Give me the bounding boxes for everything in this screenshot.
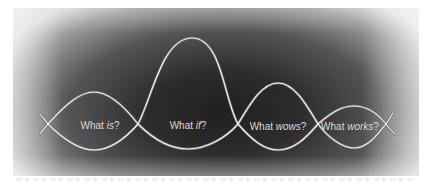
stage-label-emphasis: wows xyxy=(276,121,301,132)
stage-label-prefix: What xyxy=(321,121,347,132)
stage-label-what-if: What if? xyxy=(170,120,207,131)
stage-label-prefix: What xyxy=(250,121,276,132)
stage-label-suffix: ? xyxy=(301,121,307,132)
stage-label-prefix: What xyxy=(81,120,107,131)
stage-label-suffix: ? xyxy=(201,120,207,131)
stage-label-what-works: What works? xyxy=(321,121,379,132)
scan-artifact-strip xyxy=(16,178,416,181)
stage-label-suffix: ? xyxy=(114,120,120,131)
stage-label-emphasis: works xyxy=(347,121,373,132)
stage-label-prefix: What xyxy=(170,120,196,131)
stage-label-what-wows: What wows? xyxy=(250,121,307,132)
stage-label-suffix: ? xyxy=(373,121,379,132)
wave-curves xyxy=(0,0,432,187)
stage-label-what-is: What is? xyxy=(81,120,120,131)
